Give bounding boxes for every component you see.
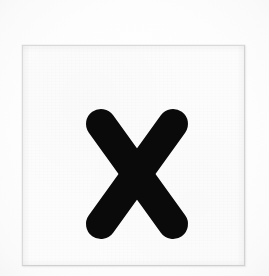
letter-x-glyph: x: [86, 109, 188, 239]
letter-card-scan: x: [0, 0, 269, 276]
letter-x-svg: [86, 109, 188, 239]
